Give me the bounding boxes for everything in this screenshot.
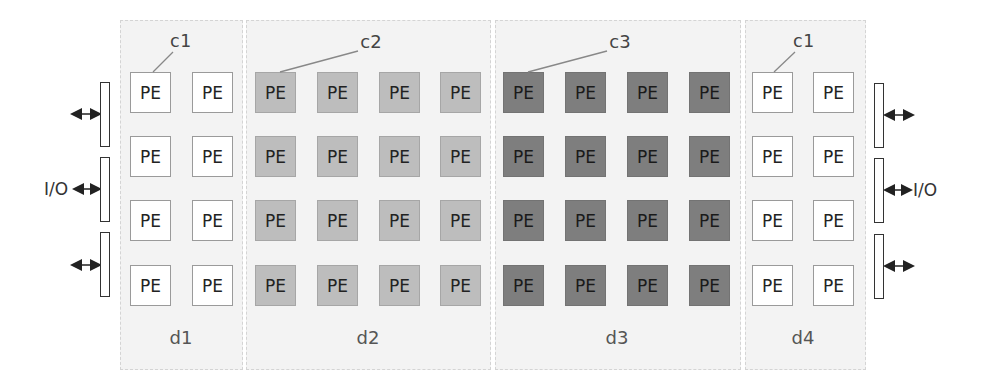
pe-d3-r2-c4: PE [689, 136, 730, 177]
pe-d4-r1-c1: PE [752, 72, 793, 113]
pe-d4-r4-c2: PE [813, 265, 854, 306]
pe-d1-r4-c1: PE [130, 265, 171, 306]
cluster-label-c1-right: c1 [792, 30, 814, 51]
pe-d3-r2-c3: PE [627, 136, 668, 177]
pe-d2-r1-c4: PE [440, 72, 481, 113]
region-label-d3: d3 [606, 327, 629, 348]
io-port-left-3 [100, 232, 110, 297]
region-label-d4: d4 [792, 327, 815, 348]
pe-d2-r1-c1: PE [255, 72, 296, 113]
cluster-label-c2: c2 [360, 31, 381, 52]
io-label-left: I/O [44, 179, 68, 199]
pe-d2-r3-c1: PE [255, 200, 296, 241]
pe-d2-r4-c2: PE [317, 265, 358, 306]
pe-d3-r1-c1: PE [503, 72, 544, 113]
pe-d2-r1-c3: PE [379, 72, 420, 113]
pe-d1-r4-c2: PE [192, 265, 233, 306]
cluster-label-c1-left: c1 [169, 30, 191, 51]
pe-d3-r4-c4: PE [689, 265, 730, 306]
io-port-left-1 [100, 82, 110, 147]
io-label-right: I/O [913, 180, 937, 200]
pe-d2-r4-c3: PE [379, 265, 420, 306]
pe-d1-r3-c2: PE [192, 200, 233, 241]
pe-d2-r3-c2: PE [317, 200, 358, 241]
pe-d4-r3-c1: PE [752, 200, 793, 241]
pe-d2-r1-c2: PE [317, 72, 358, 113]
pe-d2-r2-c3: PE [379, 136, 420, 177]
pe-d3-r3-c4: PE [689, 200, 730, 241]
pe-d3-r3-c1: PE [503, 200, 544, 241]
pe-d3-r1-c4: PE [689, 72, 730, 113]
pe-d2-r4-c4: PE [440, 265, 481, 306]
io-port-right-2 [874, 158, 884, 223]
pe-d3-r1-c3: PE [627, 72, 668, 113]
pe-d4-r4-c1: PE [752, 265, 793, 306]
pe-d3-r1-c2: PE [565, 72, 606, 113]
io-port-left-2 [100, 157, 110, 222]
pe-d3-r2-c2: PE [565, 136, 606, 177]
pe-d4-r3-c2: PE [813, 200, 854, 241]
pe-d1-r1-c2: PE [192, 72, 233, 113]
cluster-label-c3: c3 [609, 31, 630, 52]
pe-d4-r2-c2: PE [813, 136, 854, 177]
region-label-d1: d1 [170, 327, 193, 348]
pe-d1-r3-c1: PE [130, 200, 171, 241]
region-label-d2: d2 [357, 327, 380, 348]
io-port-right-1 [874, 83, 884, 148]
pe-d3-r2-c1: PE [503, 136, 544, 177]
pe-d3-r4-c2: PE [565, 265, 606, 306]
pe-d1-r1-c1: PE [130, 72, 171, 113]
pe-d3-r4-c3: PE [627, 265, 668, 306]
pe-d2-r3-c3: PE [379, 200, 420, 241]
pe-d4-r1-c2: PE [813, 72, 854, 113]
pe-d4-r2-c1: PE [752, 136, 793, 177]
pe-d3-r3-c2: PE [565, 200, 606, 241]
pe-d2-r2-c2: PE [317, 136, 358, 177]
pe-d2-r4-c1: PE [255, 265, 296, 306]
io-port-right-3 [874, 234, 884, 299]
pe-d3-r4-c1: PE [503, 265, 544, 306]
pe-d2-r2-c4: PE [440, 136, 481, 177]
pe-d2-r2-c1: PE [255, 136, 296, 177]
pe-d3-r3-c3: PE [627, 200, 668, 241]
pe-d2-r3-c4: PE [440, 200, 481, 241]
pe-d1-r2-c2: PE [192, 136, 233, 177]
pe-d1-r2-c1: PE [130, 136, 171, 177]
